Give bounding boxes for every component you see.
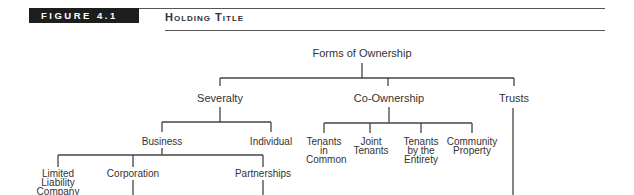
- node-severalty: Severalty: [197, 92, 243, 104]
- node-business: Business: [142, 137, 183, 146]
- node-limited-liability-company: Limited Liability Company: [35, 169, 81, 195]
- node-partnerships: Partnerships: [235, 169, 291, 178]
- node-trusts: Trusts: [499, 92, 529, 104]
- node-root: Forms of Ownership: [312, 47, 411, 59]
- node-tenants-in-common: Tenants in Common: [306, 137, 342, 164]
- node-co-ownership: Co-Ownership: [354, 92, 424, 104]
- node-individual: Individual: [250, 137, 292, 146]
- node-tenants-by-the-entirety: Tenants by the Entirety: [402, 137, 440, 164]
- node-community-property: Community Property: [446, 137, 498, 155]
- node-joint-tenants: Joint Tenants: [351, 137, 391, 155]
- node-corporation: Corporation: [107, 169, 159, 178]
- tree-connectors: [0, 0, 634, 195]
